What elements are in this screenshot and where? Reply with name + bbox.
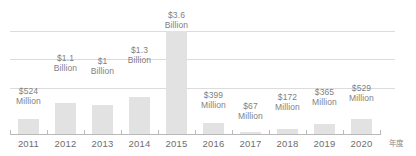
value-label-line1: $1 bbox=[98, 56, 108, 66]
bar-2020 bbox=[351, 119, 372, 134]
bar-2011 bbox=[18, 119, 39, 134]
value-label-2011: $524 Million bbox=[8, 87, 49, 106]
value-label-line2: Billion bbox=[119, 56, 160, 66]
x-label-2017: 2017 bbox=[230, 138, 271, 150]
x-label-2019: 2019 bbox=[304, 138, 345, 150]
value-label-line2: Million bbox=[304, 98, 345, 108]
x-axis-tick bbox=[380, 130, 381, 135]
bar-2019 bbox=[314, 124, 335, 134]
value-label-line1: $172 bbox=[278, 92, 297, 102]
x-label-2016: 2016 bbox=[193, 138, 234, 150]
x-axis-title: 年度 bbox=[389, 139, 403, 149]
value-label-line2: Million bbox=[230, 112, 271, 122]
value-label-line2: Million bbox=[193, 101, 234, 111]
value-label-line2: Million bbox=[8, 97, 49, 107]
value-label-line1: $399 bbox=[204, 90, 223, 100]
x-label-2012: 2012 bbox=[45, 138, 86, 150]
bar-2018 bbox=[277, 129, 298, 134]
x-axis-tick bbox=[343, 130, 344, 135]
bar-2012 bbox=[55, 103, 76, 134]
plot-area: $524 Million $1.1 Billion $1 Billion $1.… bbox=[0, 0, 416, 156]
bar-2013 bbox=[92, 105, 113, 134]
value-label-line1: $67 bbox=[243, 101, 257, 111]
bar-2017 bbox=[240, 132, 261, 134]
x-axis-tick bbox=[306, 130, 307, 135]
x-label-2018: 2018 bbox=[267, 138, 308, 150]
bar-2014 bbox=[129, 97, 150, 134]
bar-2015 bbox=[166, 31, 187, 134]
x-label-2014: 2014 bbox=[119, 138, 160, 150]
value-label-line2: Billion bbox=[45, 64, 86, 74]
value-label-line1: $529 bbox=[352, 83, 371, 93]
value-label-line1: $1.1 bbox=[57, 53, 74, 63]
value-label-2015: $3.6 Billion bbox=[156, 11, 197, 30]
value-label-line2: Billion bbox=[82, 67, 123, 77]
x-axis-tick bbox=[47, 130, 48, 135]
bar-2016 bbox=[203, 123, 224, 134]
x-label-2020: 2020 bbox=[341, 138, 382, 150]
value-label-2014: $1.3 Billion bbox=[119, 46, 160, 65]
bar-chart: $524 Million $1.1 Billion $1 Billion $1.… bbox=[0, 0, 416, 156]
value-label-2016: $399 Million bbox=[193, 91, 234, 110]
value-label-2019: $365 Million bbox=[304, 88, 345, 107]
value-label-line2: Million bbox=[267, 103, 308, 113]
x-axis-tick bbox=[10, 130, 11, 135]
value-label-2017: $67 Million bbox=[230, 102, 271, 121]
value-label-2020: $529 Million bbox=[341, 84, 382, 103]
value-label-line2: Million bbox=[341, 94, 382, 104]
x-axis-tick bbox=[158, 130, 159, 135]
x-axis-tick bbox=[269, 130, 270, 135]
x-axis-tick bbox=[121, 130, 122, 135]
value-label-line1: $365 bbox=[315, 87, 334, 97]
x-label-2015: 2015 bbox=[156, 138, 197, 150]
value-label-line2: Billion bbox=[156, 21, 197, 31]
value-label-line1: $1.3 bbox=[131, 45, 148, 55]
x-label-2013: 2013 bbox=[82, 138, 123, 150]
x-axis-tick bbox=[232, 130, 233, 135]
value-label-line1: $3.6 bbox=[168, 10, 185, 20]
value-label-2012: $1.1 Billion bbox=[45, 54, 86, 73]
value-label-line1: $524 bbox=[19, 86, 38, 96]
x-axis-tick bbox=[84, 130, 85, 135]
value-label-2018: $172 Million bbox=[267, 93, 308, 112]
value-label-2013: $1 Billion bbox=[82, 57, 123, 76]
gridline-3000 bbox=[10, 31, 395, 32]
x-axis-tick bbox=[195, 130, 196, 135]
x-label-2011: 2011 bbox=[8, 138, 49, 150]
